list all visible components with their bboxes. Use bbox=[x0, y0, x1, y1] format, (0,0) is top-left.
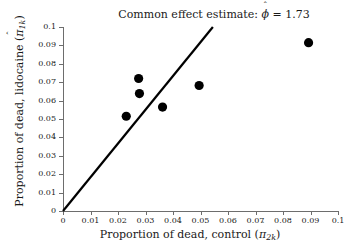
data-point bbox=[195, 81, 204, 90]
scatter-chart: Common effect estimate: ˆϕ = 1.73 00.010… bbox=[0, 0, 352, 249]
data-points-layer bbox=[122, 38, 314, 121]
plot-overlay bbox=[0, 0, 352, 249]
data-point bbox=[304, 38, 313, 47]
common-effect-line bbox=[63, 27, 213, 211]
data-point bbox=[158, 102, 167, 111]
data-point bbox=[122, 112, 131, 121]
data-point bbox=[135, 89, 144, 98]
reference-line-layer bbox=[63, 27, 213, 211]
data-point bbox=[134, 74, 143, 83]
